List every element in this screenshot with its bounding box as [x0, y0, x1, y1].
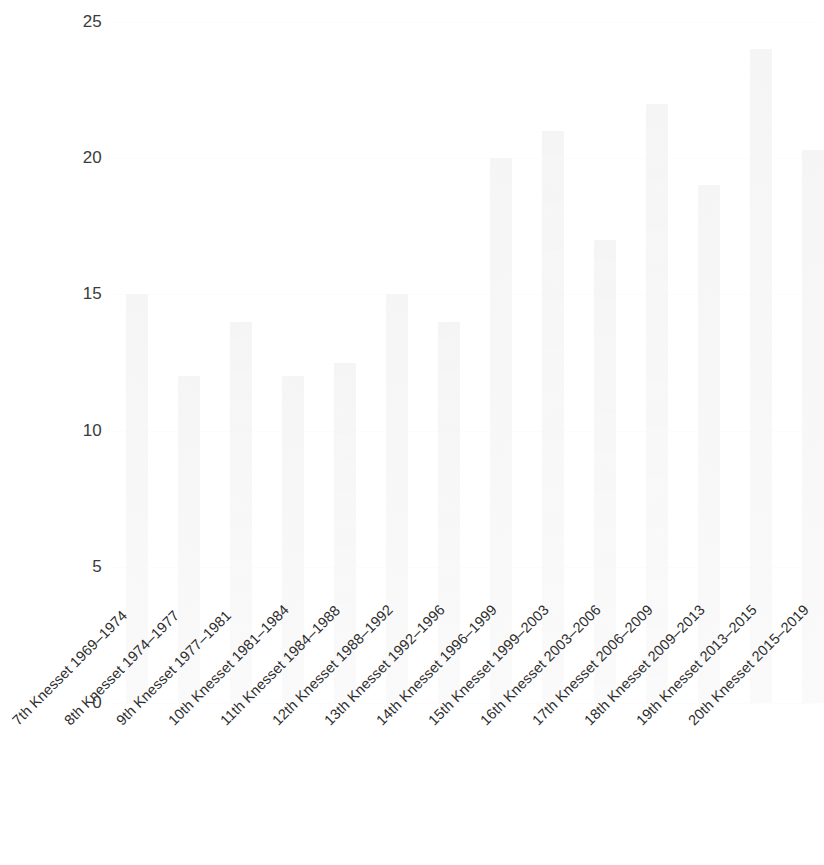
- y-tick-label: 5: [62, 558, 102, 575]
- bar: [750, 49, 772, 703]
- plot-area: [110, 10, 817, 710]
- y-tick-label: 10: [62, 422, 102, 439]
- gridline: [110, 22, 817, 23]
- y-tick-label: 20: [62, 149, 102, 166]
- x-axis: 7th Knesset 1969–19748th Knesset 1974–19…: [0, 703, 817, 865]
- bar: [490, 158, 512, 703]
- y-tick-label: 25: [62, 13, 102, 30]
- y-tick-label: 15: [62, 285, 102, 302]
- bar: [802, 150, 824, 703]
- gridline: [110, 158, 817, 159]
- bar: [698, 185, 720, 703]
